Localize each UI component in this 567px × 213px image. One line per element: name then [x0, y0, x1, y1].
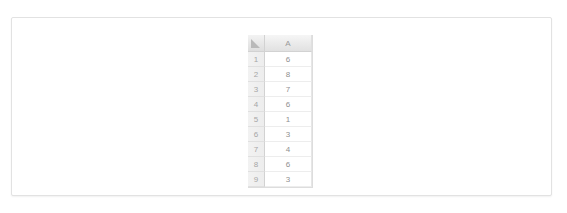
row-header[interactable]: 7 [248, 142, 265, 157]
cell-a4[interactable]: 6 [265, 97, 312, 112]
table-row[interactable]: 1 6 [248, 52, 312, 67]
cell-a6[interactable]: 3 [265, 127, 312, 142]
table-row[interactable]: 3 7 [248, 82, 312, 97]
cell-a5[interactable]: 1 [265, 112, 312, 127]
table-row[interactable]: 9 3 [248, 172, 312, 187]
table-row[interactable]: 8 6 [248, 157, 312, 172]
content-panel: A 1 6 2 8 3 7 4 6 5 1 [11, 17, 552, 196]
table-row[interactable]: 6 3 [248, 127, 312, 142]
spreadsheet-grid[interactable]: A 1 6 2 8 3 7 4 6 5 1 [248, 35, 313, 188]
table-row[interactable]: 2 8 [248, 67, 312, 82]
row-header[interactable]: 9 [248, 172, 265, 187]
spreadsheet-header-row: A [248, 35, 312, 52]
cell-a8[interactable]: 6 [265, 157, 312, 172]
table-row[interactable]: 5 1 [248, 112, 312, 127]
row-header[interactable]: 2 [248, 67, 265, 82]
row-header[interactable]: 1 [248, 52, 265, 67]
cell-a9[interactable]: 3 [265, 172, 312, 187]
column-header-a[interactable]: A [265, 35, 312, 52]
cell-a1[interactable]: 6 [265, 52, 312, 67]
cell-a2[interactable]: 8 [265, 67, 312, 82]
table-row[interactable]: 4 6 [248, 97, 312, 112]
row-header[interactable]: 4 [248, 97, 265, 112]
cell-a3[interactable]: 7 [265, 82, 312, 97]
screen: A 1 6 2 8 3 7 4 6 5 1 [0, 0, 567, 213]
row-header[interactable]: 3 [248, 82, 265, 97]
row-header[interactable]: 5 [248, 112, 265, 127]
table-row[interactable]: 7 4 [248, 142, 312, 157]
row-header[interactable]: 8 [248, 157, 265, 172]
select-all-corner-cell[interactable] [248, 35, 265, 52]
row-header[interactable]: 6 [248, 127, 265, 142]
cell-a7[interactable]: 4 [265, 142, 312, 157]
select-all-triangle-icon [251, 39, 260, 48]
